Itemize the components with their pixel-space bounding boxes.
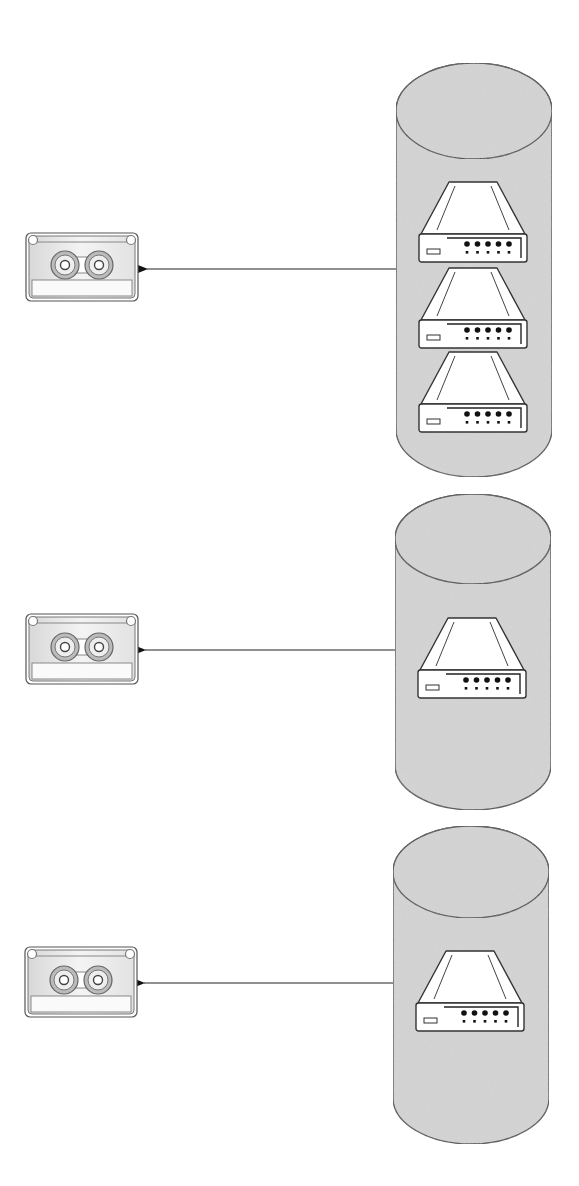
cylinder-top-cap — [396, 63, 552, 159]
tape-cassette-icon — [25, 947, 137, 1017]
cylinder-top-cap — [393, 826, 549, 918]
diagram-group-3 — [25, 826, 549, 1144]
tape-cassette-icon — [26, 614, 138, 684]
diagram-group-1 — [26, 63, 552, 477]
cylinder-top-cap — [395, 494, 551, 584]
diagram-canvas — [0, 0, 579, 1186]
tape-cassette-icon — [26, 233, 138, 301]
diagram-group-2 — [26, 494, 551, 810]
